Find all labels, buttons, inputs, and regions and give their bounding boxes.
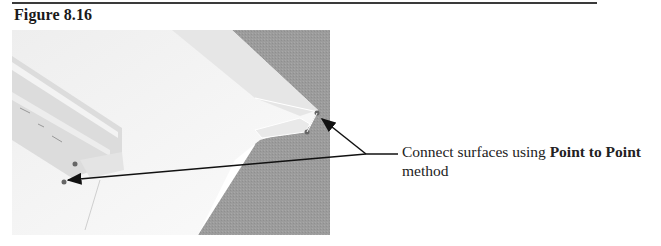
callout-text: Connect surfaces using Point to Point me… <box>402 142 661 180</box>
cad-model-image <box>0 0 661 246</box>
callout-prefix: Connect surfaces using <box>402 143 550 160</box>
callout-suffix: method <box>402 162 449 179</box>
callout-bold: Point to Point <box>550 143 641 160</box>
